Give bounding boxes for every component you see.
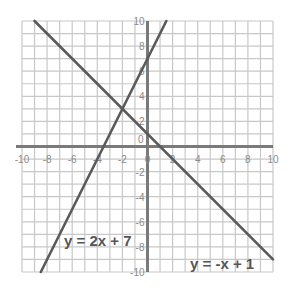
y-tick-label: -8 (136, 242, 145, 253)
x-tick-label: -8 (43, 154, 52, 165)
x-tick-label: -6 (68, 154, 77, 165)
y-tick-label: 4 (139, 91, 145, 102)
y-tick-label: -6 (136, 217, 145, 228)
function-line-2 (35, 21, 273, 259)
equation-label-2: y = -x + 1 (190, 255, 254, 272)
y-tick-label: 8 (139, 41, 145, 52)
x-tick-label: -10 (15, 154, 30, 165)
x-tick-label: 10 (267, 154, 279, 165)
x-tick-label: -2 (118, 154, 127, 165)
x-tick-label: 0 (145, 154, 151, 165)
equation-label-1: y = 2x + 7 (64, 232, 132, 249)
coordinate-plane-chart: -10-8-6-4-20246810-10-8-6-4-20246810 y =… (0, 0, 290, 297)
y-tick-label: 0 (138, 134, 144, 145)
y-tick-label: -4 (136, 192, 145, 203)
y-tick-label: -10 (130, 267, 145, 278)
x-tick-label: 6 (220, 154, 226, 165)
y-tick-label: -2 (136, 167, 145, 178)
x-tick-label: 4 (195, 154, 201, 165)
y-tick-label: 10 (133, 16, 145, 27)
x-tick-label: 8 (245, 154, 251, 165)
